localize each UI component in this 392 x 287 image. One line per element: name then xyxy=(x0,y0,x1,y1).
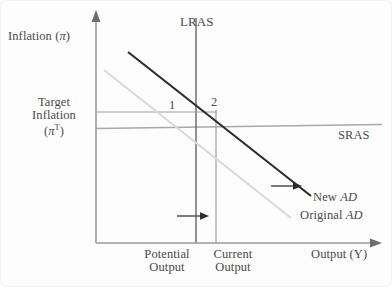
current-output-line1: Current xyxy=(204,248,262,261)
original-ad-label: Original AD xyxy=(300,209,363,222)
potential-output-tick-label: Potential Output xyxy=(136,248,198,275)
current-output-tick-label: Current Output xyxy=(204,248,262,275)
lras-label: LRAS xyxy=(180,15,214,29)
y-axis-arrowhead xyxy=(92,10,101,22)
target-inflation-line2: Inflation xyxy=(14,109,94,122)
equilibrium-point-1-label: 1 xyxy=(169,99,175,112)
output-shift-arrowhead xyxy=(200,212,209,220)
new-ad-curve xyxy=(128,52,311,196)
target-inflation-label: Target Inflation (πT) xyxy=(14,96,94,138)
sras-label: SRAS xyxy=(338,129,370,142)
x-axis-label: Output (Y) xyxy=(311,248,367,261)
x-axis-arrowhead xyxy=(370,239,382,248)
potential-output-line2: Output xyxy=(136,261,198,274)
target-inflation-line1: Target xyxy=(14,96,94,109)
current-output-line2: Output xyxy=(204,261,262,274)
potential-output-line1: Potential xyxy=(136,248,198,261)
target-inflation-symbol: (πT) xyxy=(14,123,94,138)
new-ad-label: New AD xyxy=(313,191,357,204)
y-axis-label: Inflation (π) xyxy=(8,30,70,43)
equilibrium-point-2-label: 2 xyxy=(211,96,217,109)
original-ad-curve xyxy=(104,70,291,218)
ad-as-diagram: Inflation (π) Target Inflation (πT) LRAS… xyxy=(0,0,392,287)
